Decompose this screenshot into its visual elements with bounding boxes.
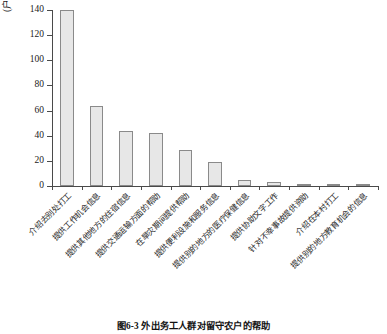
bar <box>327 184 341 187</box>
bar <box>90 106 104 186</box>
x-tick-mark <box>230 186 231 190</box>
x-tick-mark <box>141 186 142 190</box>
figure-caption: 图6-3 外出务工人群对留守农户的帮助 <box>0 320 387 332</box>
x-tick-mark <box>111 186 112 190</box>
bar <box>238 180 252 186</box>
y-tick-label: 0 <box>0 181 44 191</box>
bar <box>356 184 370 187</box>
x-tick-mark <box>200 186 201 190</box>
y-tick-label: 120 <box>0 30 44 40</box>
bar <box>267 182 281 186</box>
y-tick-label: 40 <box>0 131 44 141</box>
x-tick-mark <box>348 186 349 190</box>
x-tick-mark <box>259 186 260 190</box>
x-tick-mark <box>171 186 172 190</box>
x-tick-mark <box>289 186 290 190</box>
y-tick-label: 20 <box>0 156 44 166</box>
x-tick-mark <box>378 186 379 190</box>
bar <box>179 150 193 186</box>
x-tick-mark <box>319 186 320 190</box>
y-tick-label: 140 <box>0 5 44 15</box>
y-tick-label: 100 <box>0 56 44 66</box>
bar <box>119 131 133 186</box>
x-tick-mark <box>52 186 53 190</box>
bar <box>149 133 163 186</box>
y-tick-label: 80 <box>0 81 44 91</box>
bar <box>60 10 74 186</box>
x-tick-mark <box>82 186 83 190</box>
plot-area <box>52 10 378 186</box>
bar <box>297 184 311 187</box>
figure-container: (户) 020406080100120140 介绍去别处打工提供工作机会信息提供… <box>0 0 387 334</box>
bar <box>208 162 222 187</box>
y-tick-label: 60 <box>0 106 44 116</box>
x-axis-line <box>52 186 379 187</box>
